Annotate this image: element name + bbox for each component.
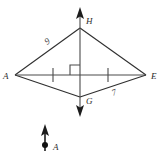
inset-vector-label-A: A	[52, 142, 59, 152]
vertex-label-H: H	[85, 16, 93, 26]
inset-vector-point-dot	[42, 142, 48, 148]
edge-AG	[15, 75, 80, 97]
right-angle-icon	[70, 65, 80, 75]
geometry-diagram: H A E G 9 7 A	[0, 0, 161, 156]
geometry-figure: H A E G 9 7 A	[0, 0, 161, 156]
vertex-label-G: G	[86, 96, 93, 106]
measure-label-side-ah: 9	[42, 36, 52, 47]
edge-HE	[80, 28, 146, 75]
vertex-label-E: E	[150, 71, 157, 81]
measure-label-side-ge: 7	[110, 87, 118, 98]
vertex-label-A: A	[2, 71, 9, 81]
